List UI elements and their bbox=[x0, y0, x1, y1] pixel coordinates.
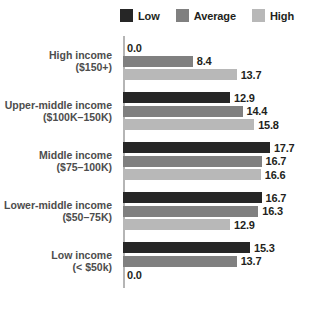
bar-stack: 17.716.716.6 bbox=[118, 142, 320, 180]
bar-group: Low income(< $50k)15.313.70.0 bbox=[0, 236, 320, 286]
legend-swatch-average bbox=[176, 9, 189, 22]
bar-value-label: 13.7 bbox=[237, 69, 262, 81]
bar-value-label: 13.7 bbox=[237, 255, 262, 267]
bar-value-label: 16.7 bbox=[262, 192, 287, 204]
bar-stack: 0.08.413.7 bbox=[118, 42, 320, 80]
legend-label-high: High bbox=[270, 10, 294, 22]
bar-stack: 12.914.415.8 bbox=[118, 92, 320, 130]
bar-value-label: 0.0 bbox=[123, 42, 142, 54]
bar-low bbox=[123, 92, 230, 103]
bar-row-low: 15.3 bbox=[123, 242, 320, 253]
bar-value-label: 14.4 bbox=[243, 105, 268, 117]
bar-average bbox=[123, 256, 237, 267]
category-label-line2: (< $50k) bbox=[0, 261, 112, 274]
bar-row-high: 15.8 bbox=[123, 119, 320, 130]
bar-value-label: 12.9 bbox=[230, 219, 255, 231]
legend-label-low: Low bbox=[138, 10, 160, 22]
bar-low bbox=[123, 192, 262, 203]
chart-plot-area: High income($150+)0.08.413.7Upper-middle… bbox=[0, 36, 320, 298]
category-label-line1: Middle income bbox=[39, 149, 112, 161]
category-label: High income($150+) bbox=[0, 49, 118, 74]
category-label: Upper-middle income($100K–150K) bbox=[0, 99, 118, 124]
legend-item-average: Average bbox=[176, 9, 236, 22]
bar-groups: High income($150+)0.08.413.7Upper-middle… bbox=[0, 36, 320, 286]
legend-label-average: Average bbox=[194, 10, 236, 22]
category-label-line2: ($100K–150K) bbox=[0, 111, 112, 124]
legend-swatch-low bbox=[120, 9, 133, 22]
bar-row-average: 16.7 bbox=[123, 156, 320, 167]
bar-row-high: 12.9 bbox=[123, 219, 320, 230]
bar-row-low: 17.7 bbox=[123, 142, 320, 153]
bar-row-low: 0.0 bbox=[123, 42, 320, 53]
bar-group: Lower-middle income($50–75K)16.716.312.9 bbox=[0, 186, 320, 236]
bar-stack: 16.716.312.9 bbox=[118, 192, 320, 230]
bar-row-average: 14.4 bbox=[123, 106, 320, 117]
category-label: Lower-middle income($50–75K) bbox=[0, 199, 118, 224]
bar-value-label: 17.7 bbox=[270, 142, 295, 154]
bar-value-label: 0.0 bbox=[123, 269, 142, 281]
bar-row-average: 8.4 bbox=[123, 56, 320, 67]
category-label-line2: ($75–100K) bbox=[0, 161, 112, 174]
chart-legend: Low Average High bbox=[120, 9, 294, 22]
category-label-line1: Lower-middle income bbox=[4, 199, 112, 211]
bar-average bbox=[123, 56, 193, 67]
category-label: Middle income($75–100K) bbox=[0, 149, 118, 174]
bar-value-label: 16.7 bbox=[262, 155, 287, 167]
category-label-line2: ($150+) bbox=[0, 61, 112, 74]
bar-value-label: 12.9 bbox=[230, 92, 255, 104]
category-label-line1: Upper-middle income bbox=[5, 99, 112, 111]
bar-high bbox=[123, 69, 237, 80]
bar-row-low: 12.9 bbox=[123, 92, 320, 103]
bar-value-label: 16.6 bbox=[261, 169, 286, 181]
category-label: Low income(< $50k) bbox=[0, 249, 118, 274]
bar-high bbox=[123, 119, 254, 130]
bar-group: Middle income($75–100K)17.716.716.6 bbox=[0, 136, 320, 186]
bar-value-label: 15.3 bbox=[250, 242, 275, 254]
bar-average bbox=[123, 206, 258, 217]
bar-row-high: 0.0 bbox=[123, 269, 320, 280]
category-label-line1: Low income bbox=[51, 249, 112, 261]
bar-average bbox=[123, 156, 262, 167]
bar-low bbox=[123, 242, 250, 253]
bar-row-high: 16.6 bbox=[123, 169, 320, 180]
bar-stack: 15.313.70.0 bbox=[118, 242, 320, 280]
bar-value-label: 16.3 bbox=[258, 205, 283, 217]
legend-item-low: Low bbox=[120, 9, 160, 22]
category-label-line2: ($50–75K) bbox=[0, 211, 112, 224]
bar-high bbox=[123, 219, 230, 230]
legend-swatch-high bbox=[252, 9, 265, 22]
category-label-line1: High income bbox=[49, 49, 112, 61]
legend-item-high: High bbox=[252, 9, 294, 22]
bar-low bbox=[123, 142, 270, 153]
bar-row-average: 13.7 bbox=[123, 256, 320, 267]
bar-average bbox=[123, 106, 243, 117]
bar-value-label: 15.8 bbox=[254, 119, 279, 131]
bar-group: Upper-middle income($100K–150K)12.914.41… bbox=[0, 86, 320, 136]
bar-value-label: 8.4 bbox=[193, 55, 212, 67]
bar-row-average: 16.3 bbox=[123, 206, 320, 217]
bar-row-high: 13.7 bbox=[123, 69, 320, 80]
bar-group: High income($150+)0.08.413.7 bbox=[0, 36, 320, 86]
bar-row-low: 16.7 bbox=[123, 192, 320, 203]
bar-high bbox=[123, 169, 261, 180]
